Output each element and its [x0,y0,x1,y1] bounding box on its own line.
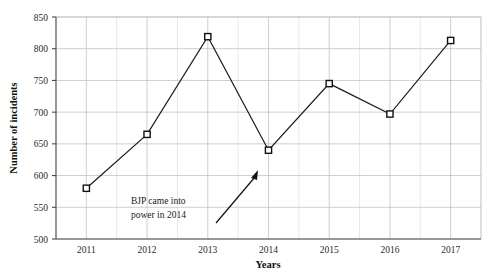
y-tick-label-750: 750 [34,76,49,86]
x-axis-tick-labels: 2011201220132014201520162017 [77,245,460,255]
data-point-2015 [326,81,332,87]
y-axis-tick-labels: 500550600650700750800850 [34,13,56,245]
data-point-2017 [448,37,454,43]
data-point-2013 [205,34,211,40]
y-tick-label-650: 650 [34,139,49,149]
x-axis-title: Years [255,259,280,270]
x-tick-label-2017: 2017 [441,245,460,255]
y-tick-label-800: 800 [34,44,49,54]
x-tick-label-2011: 2011 [77,245,96,255]
annotation-line-2: power in 2014 [131,210,186,220]
y-axis-title: Number of incidents [8,82,19,173]
chart-canvas: 500550600650700750800850 201120122013201… [0,0,499,279]
data-point-2016 [387,111,393,117]
line-chart-figure: 500550600650700750800850 201120122013201… [0,0,499,279]
y-tick-label-550: 550 [34,203,49,213]
data-point-2012 [144,131,150,137]
data-point-2011 [83,185,89,191]
y-tick-label-700: 700 [34,108,49,118]
data-point-2014 [265,147,271,153]
y-tick-label-850: 850 [34,13,49,23]
x-tick-label-2012: 2012 [138,245,157,255]
annotation-line-1: BJP came into [131,196,186,206]
x-tick-label-2013: 2013 [198,245,217,255]
x-tick-label-2015: 2015 [320,245,339,255]
x-tick-label-2016: 2016 [380,245,399,255]
y-tick-label-500: 500 [34,235,49,245]
x-tick-label-2014: 2014 [259,245,278,255]
y-tick-label-600: 600 [34,171,49,181]
